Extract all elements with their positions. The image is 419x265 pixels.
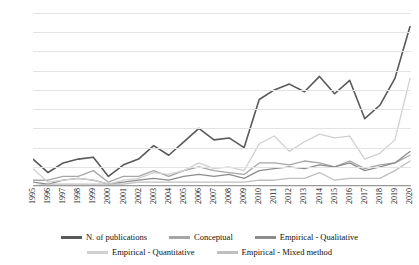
- gridline: [33, 90, 411, 91]
- x-tick-label: 2006: [195, 188, 203, 204]
- series-line: [33, 78, 410, 184]
- x-tick-label: 1997: [59, 188, 67, 204]
- x-tick-label: 2003: [150, 188, 158, 204]
- x-tick-label: 2008: [225, 188, 233, 204]
- x-tick-label: 2014: [316, 188, 324, 204]
- gridline: [33, 109, 411, 110]
- x-tick-label: 2010: [255, 188, 263, 204]
- gridline: [33, 32, 411, 33]
- legend-swatch-icon: [217, 251, 238, 254]
- gridline: [33, 128, 411, 129]
- x-tick-label: 2020: [406, 188, 414, 204]
- legend-label: Empirical - Qualitative: [280, 233, 358, 242]
- x-tick-label: 2000: [104, 188, 112, 204]
- gridline: [33, 71, 411, 72]
- legend-item[interactable]: Empirical - Quantitative: [87, 248, 195, 257]
- x-tick-label: 1998: [74, 188, 82, 204]
- x-tick-label: 2002: [135, 188, 143, 204]
- x-tick-label: 2017: [361, 188, 369, 204]
- x-tick-label: 2013: [300, 188, 308, 204]
- legend-label: Empirical - Mixed method: [242, 248, 332, 257]
- legend-swatch-icon: [87, 251, 108, 254]
- publications-line-chart: 0102030405060708090 19951996199719981999…: [0, 0, 419, 265]
- gridline: [33, 167, 411, 168]
- x-tick-label: 2011: [270, 188, 278, 204]
- x-tick-label: 2009: [240, 188, 248, 204]
- x-tick-label: 2018: [376, 188, 384, 204]
- x-tick-label: 2007: [210, 188, 218, 204]
- legend-item[interactable]: N. of publications: [61, 233, 147, 242]
- legend-item[interactable]: Conceptual: [169, 233, 233, 242]
- legend-row-bottom: Empirical - QuantitativeEmpirical - Mixe…: [0, 245, 419, 260]
- legend-label: Conceptual: [194, 233, 233, 242]
- legend-swatch-icon: [61, 236, 82, 239]
- plot-area: [33, 13, 411, 186]
- legend-swatch-icon: [169, 236, 190, 239]
- legend-label: N. of publications: [86, 233, 147, 242]
- legend-label: Empirical - Quantitative: [112, 248, 195, 257]
- x-axis-line: [33, 185, 411, 186]
- gridline: [33, 13, 411, 14]
- x-tick-label: 2019: [391, 188, 399, 204]
- legend-swatch-icon: [255, 236, 276, 239]
- x-tick-label: 2015: [331, 188, 339, 204]
- chart-legend: N. of publicationsConceptualEmpirical - …: [0, 230, 419, 265]
- x-tick-label: 2005: [180, 188, 188, 204]
- x-tick-label: 2012: [285, 188, 293, 204]
- x-tick-label: 2001: [120, 188, 128, 204]
- x-tick-label: 1999: [89, 188, 97, 204]
- series-lines: [33, 13, 411, 186]
- gridline: [33, 148, 411, 149]
- legend-item[interactable]: Empirical - Mixed method: [217, 248, 332, 257]
- x-axis: 1995199619971998199920002001200220032004…: [33, 188, 411, 228]
- x-tick-label: 1995: [29, 188, 37, 204]
- x-tick-label: 1996: [44, 188, 52, 204]
- x-tick-label: 2004: [165, 188, 173, 204]
- legend-row-top: N. of publicationsConceptualEmpirical - …: [0, 230, 419, 245]
- series-line: [33, 26, 410, 176]
- gridline: [33, 186, 411, 187]
- gridline: [33, 51, 411, 52]
- legend-item[interactable]: Empirical - Qualitative: [255, 233, 358, 242]
- x-tick-label: 2016: [346, 188, 354, 204]
